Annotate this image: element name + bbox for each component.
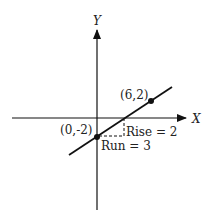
x-axis-label: X bbox=[191, 112, 201, 126]
point-0-neg2 bbox=[94, 134, 100, 140]
point-label-6-2: (6,2) bbox=[120, 88, 148, 102]
run-label: Run = 3 bbox=[101, 139, 151, 153]
point-label-0-neg2: (0,-2) bbox=[60, 123, 93, 137]
point-6-2 bbox=[148, 98, 154, 104]
coordinate-diagram: Y X (6,2) (0,-2) Rise = 2 Run = 3 bbox=[0, 0, 214, 220]
rise-label: Rise = 2 bbox=[126, 125, 177, 139]
y-axis-label: Y bbox=[93, 14, 102, 28]
